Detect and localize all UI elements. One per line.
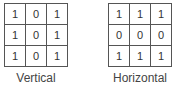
grid-cell: 1 <box>130 46 151 67</box>
grid-cell: 0 <box>151 25 172 46</box>
grid-row: 1 0 1 <box>5 46 68 67</box>
grid-cell: 1 <box>109 4 130 25</box>
grid-row: 1 0 1 <box>5 25 68 46</box>
grid-cell: 0 <box>26 25 47 46</box>
vertical-kernel-panel: 1 0 1 1 0 1 1 0 1 Vertical <box>4 3 68 67</box>
grid-cell: 1 <box>130 4 151 25</box>
horizontal-kernel-panel: 1 1 1 0 0 0 1 1 1 Horizontal <box>108 3 172 67</box>
grid-cell: 1 <box>109 46 130 67</box>
vertical-kernel-grid: 1 0 1 1 0 1 1 0 1 <box>4 3 68 67</box>
grid-cell: 0 <box>26 46 47 67</box>
horizontal-caption: Horizontal <box>108 71 172 85</box>
grid-row: 1 1 1 <box>109 46 172 67</box>
grid-cell: 0 <box>109 25 130 46</box>
grid-cell: 1 <box>47 46 68 67</box>
grid-row: 1 1 1 <box>109 4 172 25</box>
grid-cell: 1 <box>47 4 68 25</box>
grid-row: 1 0 1 <box>5 4 68 25</box>
grid-cell: 1 <box>5 46 26 67</box>
grid-row: 0 0 0 <box>109 25 172 46</box>
horizontal-kernel-grid: 1 1 1 0 0 0 1 1 1 <box>108 3 172 67</box>
grid-cell: 1 <box>151 46 172 67</box>
vertical-caption: Vertical <box>4 71 68 85</box>
grid-cell: 1 <box>47 25 68 46</box>
grid-cell: 1 <box>5 4 26 25</box>
grid-cell: 0 <box>130 25 151 46</box>
grid-cell: 1 <box>151 4 172 25</box>
grid-cell: 0 <box>26 4 47 25</box>
grid-cell: 1 <box>5 25 26 46</box>
